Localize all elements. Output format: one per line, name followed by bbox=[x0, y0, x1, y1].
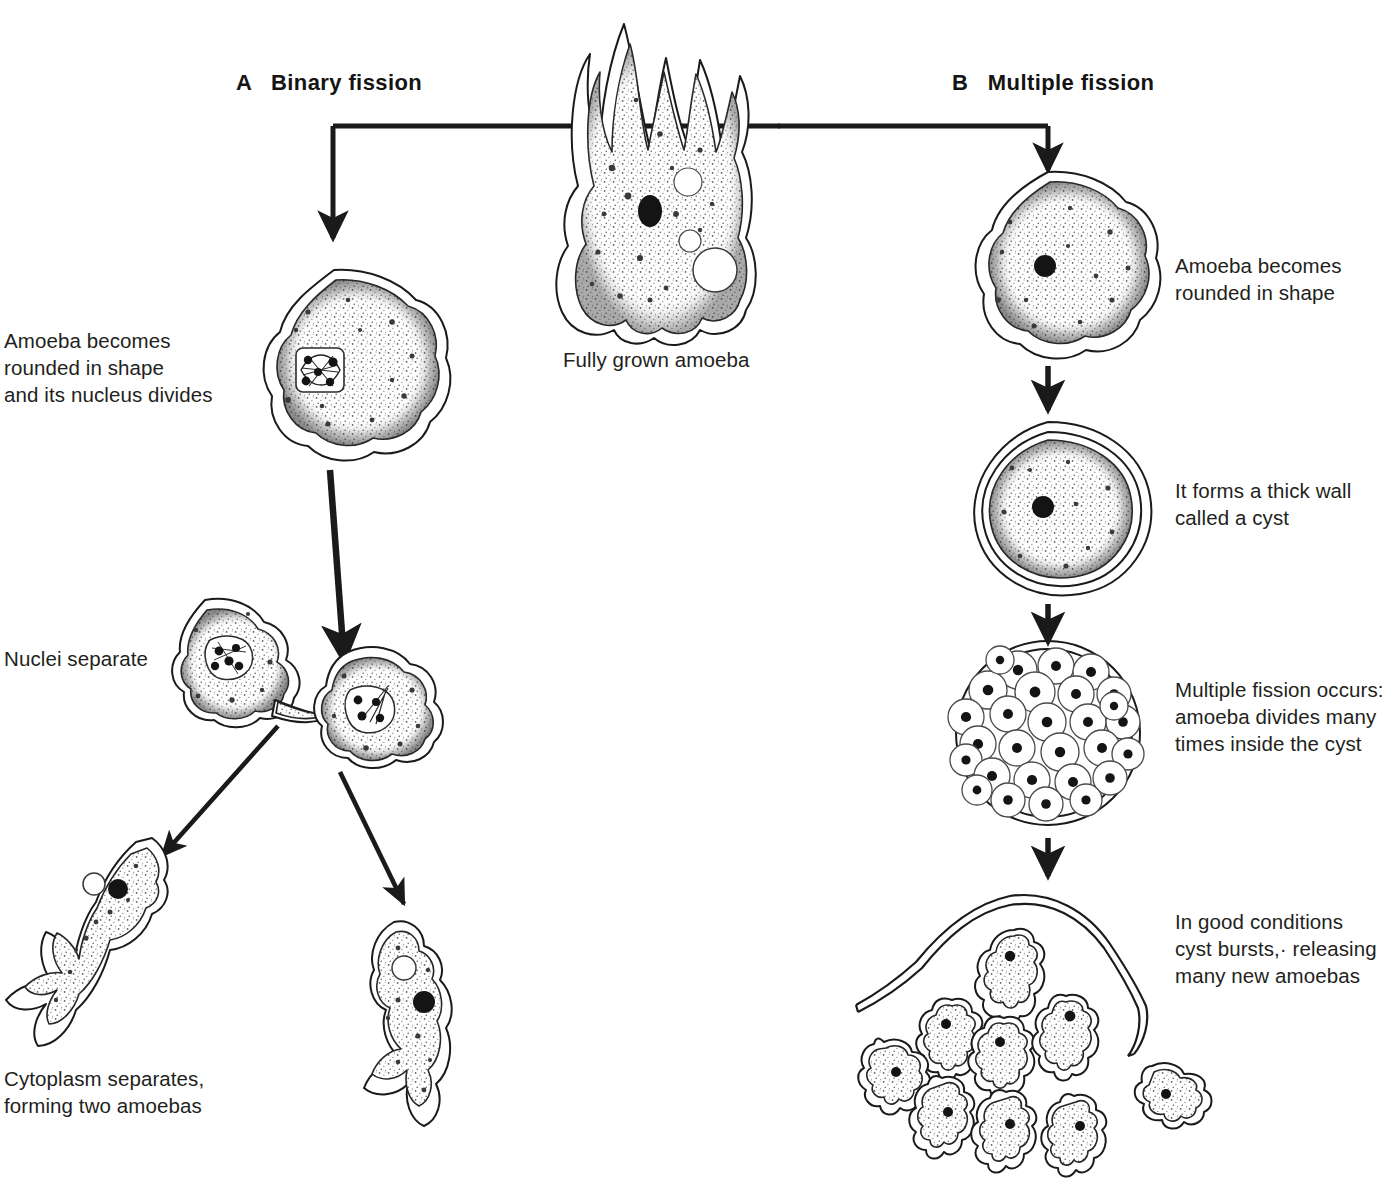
arrow-to-daughter-right bbox=[340, 772, 404, 904]
multiple-fission-cyst-illustration bbox=[948, 641, 1144, 825]
label-thick-wall-cyst: It forms a thick wall called a cyst bbox=[1175, 477, 1351, 531]
released-amoeba bbox=[1135, 1063, 1212, 1128]
label-cytoplasm-separates: Cytoplasm separates, forming two amoebas bbox=[4, 1065, 204, 1119]
released-amoeba bbox=[975, 929, 1044, 1024]
figure-canvas: A Binary fission B Multiple fission Full… bbox=[0, 0, 1395, 1199]
daughter-amoeba-right-illustration bbox=[364, 921, 452, 1126]
contractile-vacuole bbox=[83, 873, 105, 895]
released-amoeba bbox=[1032, 995, 1098, 1081]
label-nuclei-separate: Nuclei separate bbox=[4, 645, 148, 672]
section-heading-multiple-fission: B Multiple fission bbox=[952, 70, 1154, 96]
nucleus bbox=[108, 879, 128, 899]
caption-fully-grown-amoeba: Fully grown amoeba bbox=[563, 346, 749, 373]
cyst-illustration bbox=[974, 422, 1151, 595]
dividing-nucleus bbox=[296, 348, 344, 392]
label-cyst-bursts: In good conditions cyst bursts,· releasi… bbox=[1175, 908, 1377, 989]
contractile-vacuole bbox=[693, 248, 737, 292]
daughter-cells-group bbox=[948, 646, 1144, 821]
nucleus bbox=[413, 991, 435, 1013]
released-amoeba bbox=[971, 1090, 1036, 1173]
rounded-amoeba-dividing-nucleus-illustration bbox=[264, 270, 451, 461]
released-amoeba bbox=[909, 1076, 974, 1159]
arrow-to-nuclei-separate bbox=[330, 470, 344, 660]
daughter-amoeba-left-illustration bbox=[6, 838, 168, 1046]
rounded-amoeba-illustration bbox=[976, 172, 1161, 359]
nucleus bbox=[638, 195, 662, 227]
nucleus bbox=[1034, 255, 1056, 277]
section-heading-binary-fission: A Binary fission bbox=[236, 70, 422, 96]
nucleus bbox=[1032, 496, 1054, 518]
fully-grown-amoeba-illustration bbox=[556, 24, 755, 345]
released-amoeba bbox=[1041, 1094, 1106, 1177]
label-rounded-dividing-nucleus: Amoeba becomes rounded in shape and its … bbox=[4, 327, 213, 408]
daughter-nucleus-left bbox=[205, 636, 253, 679]
daughter-nucleus-right bbox=[345, 686, 394, 733]
label-multiple-fission-occurs: Multiple fission occurs: amoeba divides … bbox=[1175, 676, 1384, 757]
dumbbell-nuclei-separate-illustration bbox=[172, 599, 443, 768]
label-amoeba-rounded: Amoeba becomes rounded in shape bbox=[1175, 252, 1342, 306]
contractile-vacuole bbox=[392, 956, 416, 980]
diagram-illustration-layer bbox=[0, 0, 1395, 1199]
arrow-to-daughter-left bbox=[162, 726, 278, 856]
